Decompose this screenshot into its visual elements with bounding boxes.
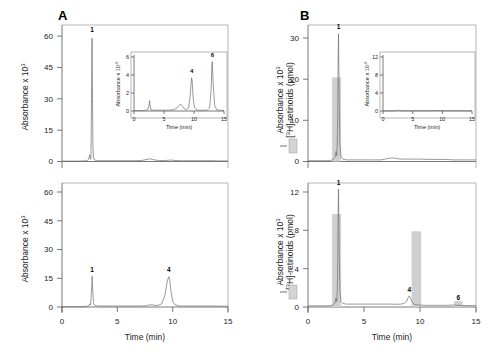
legend-b-top-retinoids: [3H]-retinoids (pmol) [285,62,296,138]
svg-text:Absorbance x 10-6: Absorbance x 10-6 [114,61,121,107]
panel-letter-a: A [58,8,68,23]
inset-peak-label-4: 4 [190,68,194,74]
inset-x-ticks: 0 5 10 15 [381,111,475,122]
y-tick-0: 0 [295,157,300,166]
svg-text:Absorbance x 103: Absorbance x 103 [20,63,31,131]
y-tick-4: 4 [295,265,300,274]
y-axis-title-a-top-exp: 3 [20,63,26,67]
y-tick-0: 0 [49,157,54,166]
inset-x-tick-10: 10 [439,116,445,122]
y-tick-30: 30 [44,95,53,104]
y-tick-30: 30 [290,34,299,43]
inset-y-axis-title-exp: -6 [363,61,368,65]
inset-y-tick-8: 8 [375,72,378,78]
legend-label-absorbance: Absorbance x 10 [275,222,285,286]
legend-b-bottom-retinoids: [3H]-retinoids (pmol) [285,214,296,290]
svg-text:Absorbance x 103: Absorbance x 103 [275,218,286,286]
bar-fraction-4 [412,231,422,307]
inset-y-tick-0: 0 [126,108,129,114]
inset-x-tick-0: 0 [381,116,384,122]
inset-y-tick-4: 4 [126,72,129,78]
legend-symbol-bar [289,139,297,153]
x-tick-10: 10 [416,317,425,326]
y-axis-title-group: Absorbance x 103 [20,215,31,283]
inset-y-axis-title-group: Absorbance x 10-6 [363,61,370,107]
plot-panel-a-top: 0 15 30 45 60 Absorbance x 103 1 [20,25,229,168]
peak-label-1: 1 [90,266,94,273]
inset-x-axis-title: Time (min) [166,124,192,130]
x-tick-5: 5 [115,317,120,326]
inset-y-tick-6: 6 [126,54,129,60]
y-axis-title-group: Absorbance x 103 [20,63,31,131]
peak-label-4: 4 [167,266,171,273]
x-tick-0: 0 [60,317,65,326]
legend-label-absorbance-exp: 3 [275,66,281,70]
inset-y-tick-12: 12 [372,54,378,60]
y-tick-8: 8 [295,226,300,235]
inset-y-ticks: 0 4 8 12 [372,54,383,114]
trace-inset-b [383,110,472,111]
peak-label-4: 4 [407,286,411,293]
y-tick-60: 60 [44,188,53,197]
peak-label-1: 1 [337,23,341,30]
inset-x-tick-15: 15 [469,116,475,122]
inset-panel-a-top: 0 2 4 6 0 5 10 15 Time (min) Absorbance … [114,52,227,130]
inset-frame [380,52,475,118]
y-tick-12: 12 [290,188,299,197]
peak-label-1: 1 [90,26,94,33]
inset-y-tick-2: 2 [126,90,129,96]
inset-x-tick-5: 5 [162,116,165,122]
legend-label-absorbance: Absorbance x 10 [275,70,285,134]
y-axis-title-a-top: Absorbance x 10 [20,67,30,131]
inset-panel-b-top: 0 4 8 12 0 5 10 15 Time (min) Absorbance… [363,52,475,130]
y-axis-title-a-bottom: Absorbance x 10 [20,219,30,283]
svg-text:Absorbance x 10-6: Absorbance x 10-6 [363,61,370,107]
legend-symbol-bar [289,285,297,299]
trace-panel-a-top [62,38,228,161]
inset-x-tick-0: 0 [132,116,135,122]
x-tick-10: 10 [168,317,177,326]
inset-y-axis-title-exp: -6 [114,61,119,65]
x-ticks: 0 5 10 15 [306,307,481,326]
panel-letter-b: B [300,8,309,23]
chromatography-figure: A B 0 15 30 45 60 [0,0,489,357]
x-tick-5: 5 [362,317,367,326]
inset-y-tick-0: 0 [375,108,378,114]
y-ticks: 0 15 30 45 60 [44,188,62,312]
x-axis-title-b: Time (min) [372,332,412,342]
y-tick-0: 0 [295,303,300,312]
plot-panel-b-bottom: 0 4 8 12 Absorbance x 103 [3H]-retinoids… [275,179,481,342]
peak-label-1: 1 [337,179,341,186]
svg-text:[3H]-retinoids (pmol): [3H]-retinoids (pmol) [285,214,296,290]
inset-y-axis-title: Absorbance x 10 [364,65,370,106]
plot-panel-a-bottom: 0 15 30 45 60 Absorbance x 103 0 5 10 [20,183,233,342]
inset-x-tick-15: 15 [221,116,227,122]
legend-label-absorbance-exp: 3 [275,218,281,222]
inset-x-axis-title: Time (min) [414,124,440,130]
x-ticks: 0 5 10 15 [60,307,233,326]
y-tick-45: 45 [44,217,53,226]
inset-y-ticks: 0 2 4 6 [126,54,134,114]
svg-text:[3H]-retinoids (pmol): [3H]-retinoids (pmol) [285,62,296,138]
y-tick-0: 0 [49,303,54,312]
y-axis-title-a-bottom-exp: 3 [20,215,26,219]
y-tick-15: 15 [44,126,53,135]
x-tick-15: 15 [224,317,233,326]
y-tick-60: 60 [44,32,53,41]
y-tick-45: 45 [44,63,53,72]
inset-y-axis-title: Absorbance x 10 [115,65,121,106]
trace-inset-a [134,62,224,111]
inset-x-tick-5: 5 [411,116,414,122]
svg-text:Absorbance x 103: Absorbance x 103 [20,215,31,283]
inset-y-axis-title-group: Absorbance x 10-6 [114,61,121,107]
y-tick-30: 30 [44,245,53,254]
legend-retinoid-text: H]-retinoids (pmol) [285,214,295,284]
peak-label-6: 6 [457,294,461,301]
svg-text:Absorbance x 103: Absorbance x 103 [275,66,286,134]
inset-peak-label-6: 6 [211,52,215,58]
y-tick-15: 15 [44,274,53,283]
figure-root: A B 0 15 30 45 60 [0,0,489,357]
trace-panel-a-bottom [62,276,228,306]
y-ticks: 0 15 30 45 60 [44,32,62,166]
x-tick-15: 15 [472,317,481,326]
